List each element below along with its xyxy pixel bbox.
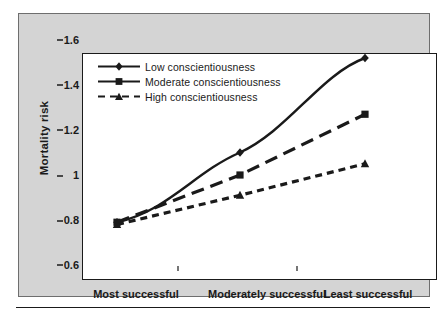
chart-svg	[0, 0, 447, 316]
square-marker	[361, 111, 368, 118]
series-line	[117, 114, 365, 222]
axis-tick-marks	[57, 40, 297, 271]
diamond-marker	[361, 54, 369, 62]
data-series-layer	[113, 54, 369, 228]
square-marker	[236, 171, 243, 178]
diamond-marker	[236, 148, 244, 156]
figure-container: Mortality risk 1.6 1.4 1.2 1 0.8 0.6 Mos…	[0, 0, 447, 316]
bottom-rule	[16, 307, 430, 308]
